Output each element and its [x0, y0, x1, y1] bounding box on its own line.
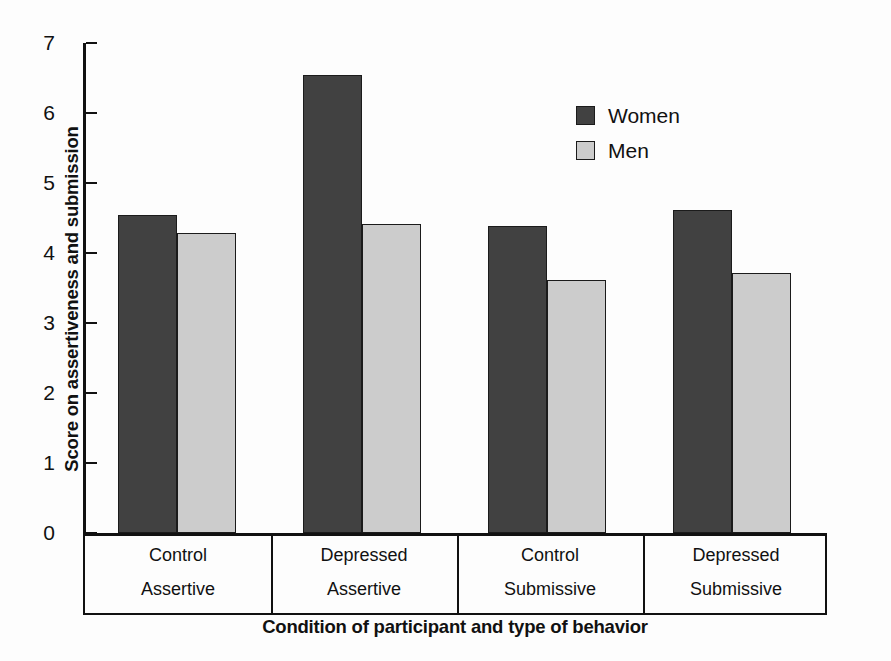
legend-label-men: Men: [608, 140, 649, 161]
x-category-condition-3: Control: [457, 545, 643, 566]
y-tick-label-5: 5: [15, 172, 55, 193]
x-axis-title: Condition of participant and type of beh…: [83, 616, 827, 638]
y-tick-label-2: 2: [15, 382, 55, 403]
bar-women-group-1: [118, 215, 177, 534]
x-category-behavior-2: Assertive: [271, 579, 457, 600]
y-tick-label-6: 6: [15, 102, 55, 123]
y-tick-label-0: 0: [15, 522, 55, 543]
bar-chart-figure: Score on assertiveness and submission 76…: [0, 0, 891, 661]
bar-men-group-2: [362, 224, 421, 533]
legend-label-women: Women: [608, 105, 680, 126]
x-category-behavior-1: Assertive: [85, 579, 271, 600]
x-category-divider-2: [457, 536, 459, 615]
y-tick-label-1: 1: [15, 452, 55, 473]
legend-item-women[interactable]: Women: [576, 103, 680, 127]
x-category-condition-4: Depressed: [643, 545, 829, 566]
y-tick-label-3: 3: [15, 312, 55, 333]
x-category-behavior-4: Submissive: [643, 579, 829, 600]
light-swatch-icon: [576, 141, 595, 160]
x-category-behavior-3: Submissive: [457, 579, 643, 600]
x-category-group-2: DepressedAssertive: [271, 536, 457, 615]
plot-area: [86, 43, 827, 533]
x-category-group-4: DepressedSubmissive: [643, 536, 829, 615]
y-axis-title: Score on assertiveness and submission: [61, 59, 83, 539]
bar-women-group-2: [303, 75, 362, 534]
x-axis-category-box: ControlAssertiveDepressedAssertiveContro…: [83, 536, 827, 615]
bar-women-group-3: [488, 226, 547, 533]
y-tick-label-7: 7: [15, 32, 55, 53]
x-category-group-3: ControlSubmissive: [457, 536, 643, 615]
x-category-group-1: ControlAssertive: [85, 536, 271, 615]
legend-item-men[interactable]: Men: [576, 138, 680, 162]
dark-swatch-icon: [576, 106, 595, 125]
y-tick-label-4: 4: [15, 242, 55, 263]
bar-men-group-3: [547, 280, 606, 533]
x-category-condition-1: Control: [85, 545, 271, 566]
x-category-condition-2: Depressed: [271, 545, 457, 566]
bar-women-group-4: [673, 210, 732, 533]
bar-men-group-4: [732, 273, 791, 533]
x-category-divider-3: [643, 536, 645, 615]
x-category-divider-1: [271, 536, 273, 615]
legend: Women Men: [576, 103, 680, 173]
bar-men-group-1: [177, 233, 236, 533]
